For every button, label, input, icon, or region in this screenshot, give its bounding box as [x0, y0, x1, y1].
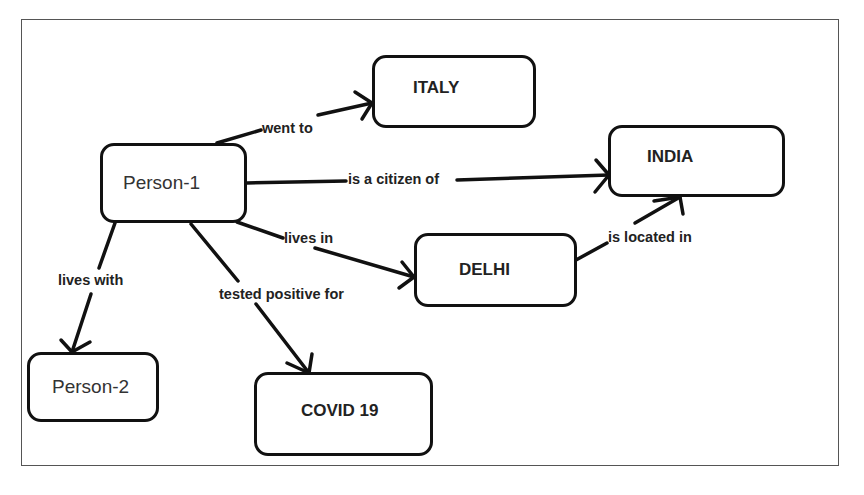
- edge-tested-line-b: [256, 304, 309, 373]
- node-person-1[interactable]: Person-1: [100, 143, 247, 223]
- node-india[interactable]: INDIA: [608, 125, 785, 197]
- edge-label-went-to: went to: [262, 120, 313, 136]
- node-person-2[interactable]: Person-2: [27, 352, 159, 422]
- node-covid-19[interactable]: COVID 19: [254, 372, 433, 456]
- edge-label-tested-positive: tested positive for: [219, 286, 344, 302]
- edge-label-citizen-of: is a citizen of: [348, 171, 439, 187]
- node-covid-19-label: COVID 19: [301, 401, 378, 421]
- node-delhi[interactable]: DELHI: [414, 233, 577, 307]
- node-person-2-label: Person-2: [52, 376, 129, 398]
- edge-lives-in-line-b: [315, 248, 414, 277]
- edge-located-in-line-a: [576, 243, 607, 260]
- node-italy[interactable]: ITALY: [372, 55, 536, 128]
- edge-label-located-in: is located in: [608, 229, 692, 245]
- edge-label-lives-in: lives in: [284, 230, 333, 246]
- edge-label-lives-with: lives with: [58, 272, 123, 288]
- node-person-1-label: Person-1: [123, 172, 200, 194]
- diagram-canvas: Person-1 ITALY INDIA DELHI Person-2 COVI…: [0, 0, 864, 495]
- node-delhi-label: DELHI: [459, 260, 510, 280]
- edge-citizen-line-b: [457, 175, 609, 180]
- node-italy-label: ITALY: [413, 78, 459, 98]
- node-india-label: INDIA: [647, 147, 693, 167]
